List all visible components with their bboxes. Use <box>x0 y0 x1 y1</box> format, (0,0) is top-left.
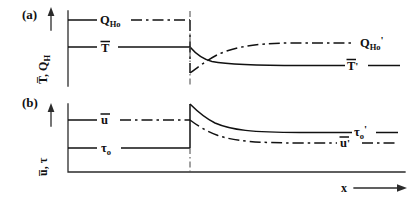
panel-b-tag: (b) <box>22 95 38 110</box>
panel-b-y-axis-label: u̅, τ <box>36 157 50 177</box>
curve-label-t-bar: T <box>101 41 110 55</box>
x-axis-label: x <box>341 181 347 195</box>
panel-a: (a) T̅, QH QHo T <box>22 7 400 86</box>
curve-tau-o-prime-decay <box>190 104 352 133</box>
curve-label-u-bar: u <box>101 113 108 127</box>
curve-label-t-bar-prime: T' <box>347 59 358 73</box>
panel-b: (b) u̅, τ u τo τo <box>22 95 407 195</box>
panel-a-y-label-Q: Q <box>36 62 50 71</box>
curve-q-ho-prime-rise <box>190 43 355 73</box>
panel-a-tag: (a) <box>22 7 37 22</box>
curve-label-q-ho-prime: QHo' <box>360 34 384 52</box>
panel-a-y-axis-arrow <box>48 7 55 30</box>
curve-label-q-ho: QHo <box>100 13 121 29</box>
schematic-figure: (a) T̅, QH QHo T <box>0 0 417 201</box>
panel-a-y-axis-label: T̅, QH <box>36 55 52 84</box>
curve-label-u-bar-prime: u' <box>340 136 350 150</box>
panel-b-y-label-tau: τ <box>36 157 50 163</box>
panel-a-y-label-Q-sub: H <box>42 55 52 62</box>
svg-text:T̅, QH: T̅, QH <box>36 55 52 84</box>
figure-container: (a) T̅, QH QHo T <box>0 0 417 201</box>
curve-label-tau-o: τo <box>101 141 111 157</box>
svg-text:u̅, τ: u̅, τ <box>36 157 50 177</box>
curve-label-tau-o-prime: τo' <box>354 123 367 141</box>
x-axis-arrow <box>354 184 407 192</box>
panel-b-y-axis-arrow <box>48 103 55 126</box>
